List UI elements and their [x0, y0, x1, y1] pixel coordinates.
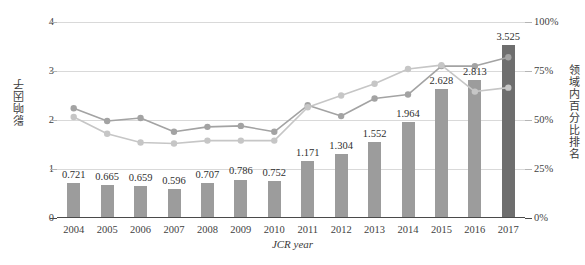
x-tick-label: 2015 [425, 225, 458, 236]
bar-value-label: 0.665 [95, 172, 119, 183]
x-tick-label: 2008 [191, 225, 224, 236]
line-marker [71, 114, 77, 120]
line-marker [104, 118, 110, 124]
bar-value-label: 0.752 [262, 168, 286, 179]
y-tick-mark-left [50, 169, 57, 170]
line-marker [271, 129, 277, 135]
bar-value-label: 1.552 [363, 129, 387, 140]
line-series [57, 22, 525, 218]
x-tick-label: 2006 [124, 225, 157, 236]
line-marker [238, 137, 244, 143]
bar-value-label: 0.596 [162, 176, 186, 187]
plot-area [57, 22, 525, 218]
bar-value-label: 1.304 [329, 141, 353, 152]
x-tick-label: 2004 [57, 225, 90, 236]
y-tick-mark-left [50, 22, 57, 23]
bar-value-label: 0.721 [62, 170, 86, 181]
y-tick-mark-left [50, 218, 57, 219]
line-marker [171, 129, 177, 135]
line-marker [371, 81, 377, 87]
x-tick-label: 2005 [90, 225, 123, 236]
y-tick-label-right: 50% [534, 115, 553, 126]
y-tick-label-right: 0% [534, 213, 548, 224]
x-tick-label: 2012 [324, 225, 357, 236]
line-marker [338, 92, 344, 98]
bar-value-label: 1.171 [296, 148, 320, 159]
line-marker [438, 62, 444, 68]
line-marker [271, 137, 277, 143]
y-tick-mark-right [525, 22, 532, 23]
line-marker [305, 104, 311, 110]
line-marker [71, 105, 77, 111]
y-tick-label-right: 25% [534, 164, 553, 175]
x-tick-label: 2013 [358, 225, 391, 236]
y-axis-right-title: 领域内百分比排名 [563, 64, 579, 160]
line-marker [171, 140, 177, 146]
y-tick-mark-right [525, 120, 532, 121]
y-tick-mark-right [525, 169, 532, 170]
y-tick-mark-right [525, 218, 532, 219]
y-tick-label-right: 75% [534, 66, 553, 77]
x-tick-label: 2017 [492, 225, 525, 236]
bar-value-label: 0.786 [229, 166, 253, 177]
line-marker [104, 131, 110, 137]
line-marker [338, 113, 344, 119]
line-marker [137, 139, 143, 145]
y-tick-mark-right [525, 71, 532, 72]
bar-value-label: 3.525 [496, 32, 520, 43]
line-marker [204, 137, 210, 143]
chart-figure: 影响因子 领域内百分比排名 JCR year 01234 0%25%50%75%… [0, 0, 585, 265]
line-marker [137, 115, 143, 121]
line-marker [204, 124, 210, 130]
x-tick-label: 2007 [157, 225, 190, 236]
line-marker [505, 54, 511, 60]
line-marker [472, 88, 478, 94]
x-axis-baseline [57, 217, 525, 219]
line-marker [405, 91, 411, 97]
x-tick-label: 2016 [458, 225, 491, 236]
y-tick-mark-left [50, 71, 57, 72]
line-marker [405, 66, 411, 72]
bar-value-label: 0.707 [196, 170, 220, 181]
x-tick-label: 2010 [258, 225, 291, 236]
line-marker [371, 95, 377, 101]
bar-value-label: 2.628 [430, 76, 454, 87]
y-axis-left-title: 影响因子 [14, 78, 30, 126]
bar-value-label: 1.964 [396, 109, 420, 120]
line-marker [238, 123, 244, 129]
bar-value-label: 0.659 [129, 173, 153, 184]
bar-value-label: 2.813 [463, 67, 487, 78]
x-tick-label: 2011 [291, 225, 324, 236]
x-tick-label: 2009 [224, 225, 257, 236]
y-tick-mark-left [50, 120, 57, 121]
line-marker [505, 84, 511, 90]
x-axis-title: JCR year [0, 238, 585, 250]
y-tick-label-right: 100% [534, 17, 559, 28]
x-tick-label: 2014 [391, 225, 424, 236]
